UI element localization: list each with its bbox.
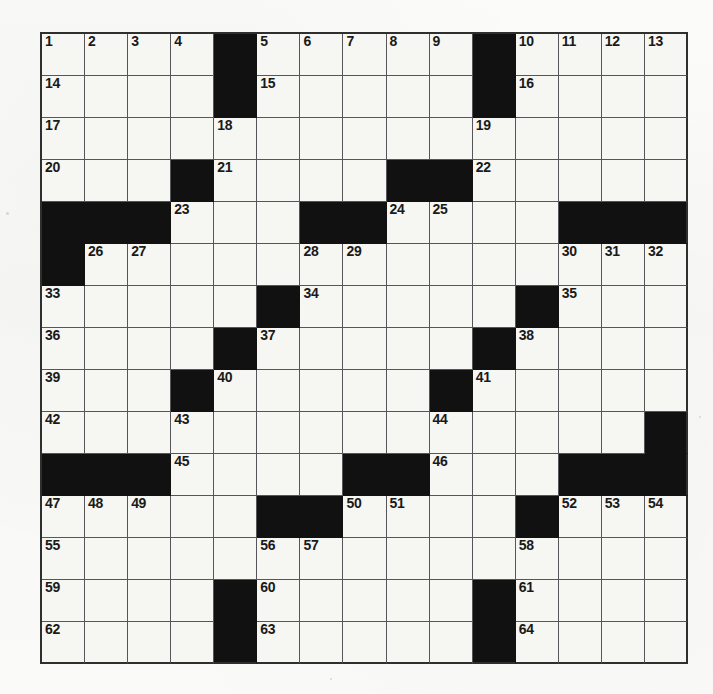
grid-cell[interactable] bbox=[214, 454, 257, 496]
grid-cell[interactable] bbox=[171, 580, 214, 622]
grid-cell[interactable] bbox=[602, 160, 645, 202]
grid-cell[interactable]: 39 bbox=[42, 370, 85, 412]
grid-cell[interactable] bbox=[128, 328, 171, 370]
grid-cell[interactable] bbox=[257, 244, 300, 286]
crossword-grid[interactable]: 1234567891011121314151617181920212223242… bbox=[40, 32, 688, 664]
grid-cell[interactable] bbox=[128, 538, 171, 580]
grid-cell[interactable]: 37 bbox=[257, 328, 300, 370]
grid-cell[interactable]: 43 bbox=[171, 412, 214, 454]
grid-cell[interactable] bbox=[300, 370, 343, 412]
grid-cell[interactable] bbox=[171, 286, 214, 328]
grid-cell[interactable] bbox=[645, 370, 688, 412]
grid-cell[interactable] bbox=[559, 412, 602, 454]
grid-cell[interactable]: 28 bbox=[300, 244, 343, 286]
grid-cell[interactable]: 14 bbox=[42, 76, 85, 118]
grid-cell[interactable]: 15 bbox=[257, 76, 300, 118]
grid-cell[interactable] bbox=[430, 538, 473, 580]
grid-cell[interactable]: 48 bbox=[85, 496, 128, 538]
grid-cell[interactable]: 45 bbox=[171, 454, 214, 496]
grid-cell[interactable] bbox=[171, 244, 214, 286]
grid-cell[interactable]: 26 bbox=[85, 244, 128, 286]
grid-cell[interactable]: 46 bbox=[430, 454, 473, 496]
grid-cell[interactable] bbox=[430, 496, 473, 538]
grid-cell[interactable] bbox=[343, 328, 386, 370]
grid-cell[interactable]: 29 bbox=[343, 244, 386, 286]
grid-cell[interactable]: 7 bbox=[343, 34, 386, 76]
grid-cell[interactable] bbox=[343, 580, 386, 622]
grid-cell[interactable] bbox=[343, 370, 386, 412]
grid-cell[interactable] bbox=[645, 580, 688, 622]
grid-cell[interactable]: 32 bbox=[645, 244, 688, 286]
grid-cell[interactable] bbox=[473, 454, 516, 496]
grid-cell[interactable] bbox=[128, 412, 171, 454]
grid-cell[interactable] bbox=[343, 622, 386, 664]
grid-cell[interactable] bbox=[171, 328, 214, 370]
grid-cell[interactable]: 25 bbox=[430, 202, 473, 244]
grid-cell[interactable] bbox=[559, 328, 602, 370]
grid-cell[interactable] bbox=[257, 412, 300, 454]
grid-cell[interactable] bbox=[85, 328, 128, 370]
grid-cell[interactable] bbox=[430, 118, 473, 160]
grid-cell[interactable]: 18 bbox=[214, 118, 257, 160]
grid-cell[interactable]: 55 bbox=[42, 538, 85, 580]
grid-cell[interactable] bbox=[602, 286, 645, 328]
grid-cell[interactable] bbox=[387, 370, 430, 412]
grid-cell[interactable] bbox=[473, 496, 516, 538]
grid-cell[interactable] bbox=[85, 76, 128, 118]
grid-cell[interactable] bbox=[343, 412, 386, 454]
grid-cell[interactable] bbox=[645, 160, 688, 202]
grid-cell[interactable] bbox=[171, 76, 214, 118]
grid-cell[interactable]: 61 bbox=[516, 580, 559, 622]
grid-cell[interactable] bbox=[602, 622, 645, 664]
grid-cell[interactable] bbox=[257, 202, 300, 244]
grid-cell[interactable] bbox=[430, 244, 473, 286]
grid-cell[interactable]: 17 bbox=[42, 118, 85, 160]
grid-cell[interactable]: 60 bbox=[257, 580, 300, 622]
grid-cell[interactable]: 62 bbox=[42, 622, 85, 664]
grid-cell[interactable]: 59 bbox=[42, 580, 85, 622]
grid-cell[interactable]: 41 bbox=[473, 370, 516, 412]
grid-cell[interactable] bbox=[171, 622, 214, 664]
grid-cell[interactable]: 56 bbox=[257, 538, 300, 580]
grid-cell[interactable] bbox=[85, 160, 128, 202]
grid-cell[interactable] bbox=[645, 622, 688, 664]
grid-cell[interactable]: 2 bbox=[85, 34, 128, 76]
grid-cell[interactable] bbox=[516, 202, 559, 244]
grid-cell[interactable]: 49 bbox=[128, 496, 171, 538]
grid-cell[interactable] bbox=[257, 160, 300, 202]
grid-cell[interactable] bbox=[602, 370, 645, 412]
grid-cell[interactable] bbox=[128, 118, 171, 160]
grid-cell[interactable]: 10 bbox=[516, 34, 559, 76]
grid-cell[interactable] bbox=[300, 160, 343, 202]
grid-cell[interactable] bbox=[645, 118, 688, 160]
grid-cell[interactable] bbox=[559, 538, 602, 580]
grid-cell[interactable]: 23 bbox=[171, 202, 214, 244]
grid-cell[interactable] bbox=[214, 538, 257, 580]
grid-cell[interactable]: 27 bbox=[128, 244, 171, 286]
grid-cell[interactable]: 20 bbox=[42, 160, 85, 202]
grid-cell[interactable]: 38 bbox=[516, 328, 559, 370]
grid-cell[interactable] bbox=[300, 76, 343, 118]
grid-cell[interactable] bbox=[214, 412, 257, 454]
grid-cell[interactable] bbox=[430, 580, 473, 622]
grid-cell[interactable] bbox=[85, 370, 128, 412]
grid-cell[interactable] bbox=[516, 370, 559, 412]
grid-cell[interactable]: 54 bbox=[645, 496, 688, 538]
grid-cell[interactable]: 34 bbox=[300, 286, 343, 328]
grid-cell[interactable] bbox=[602, 412, 645, 454]
grid-cell[interactable]: 31 bbox=[602, 244, 645, 286]
grid-cell[interactable]: 57 bbox=[300, 538, 343, 580]
grid-cell[interactable] bbox=[516, 244, 559, 286]
grid-cell[interactable] bbox=[516, 454, 559, 496]
grid-cell[interactable]: 40 bbox=[214, 370, 257, 412]
grid-cell[interactable] bbox=[300, 118, 343, 160]
grid-cell[interactable] bbox=[343, 160, 386, 202]
grid-cell[interactable]: 24 bbox=[387, 202, 430, 244]
grid-cell[interactable]: 51 bbox=[387, 496, 430, 538]
grid-cell[interactable] bbox=[257, 454, 300, 496]
grid-cell[interactable] bbox=[516, 160, 559, 202]
grid-cell[interactable] bbox=[300, 454, 343, 496]
grid-cell[interactable] bbox=[387, 286, 430, 328]
grid-cell[interactable] bbox=[559, 160, 602, 202]
grid-cell[interactable]: 36 bbox=[42, 328, 85, 370]
